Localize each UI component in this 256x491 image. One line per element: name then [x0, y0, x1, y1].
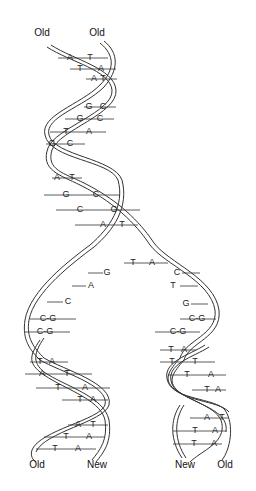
svg-text:A: A — [211, 438, 217, 448]
svg-text:A: A — [67, 52, 73, 62]
svg-text:G: G — [62, 189, 69, 199]
svg-text:A: A — [208, 369, 214, 379]
right-daughter-base-pairs: T A T T T A T A A T T A T A — [160, 344, 228, 448]
svg-text:T: T — [87, 52, 93, 62]
svg-text:T: T — [100, 73, 106, 83]
svg-text:C: C — [77, 204, 84, 214]
svg-text:A: A — [86, 431, 92, 441]
label-top-old-left: Old — [34, 27, 50, 38]
svg-text:T: T — [192, 425, 198, 435]
svg-text:A: A — [91, 73, 97, 83]
svg-text:C-G: C-G — [189, 313, 206, 323]
svg-text:C: C — [97, 113, 104, 123]
svg-text:A: A — [181, 344, 187, 354]
svg-text:G: G — [182, 298, 189, 308]
svg-text:C: C — [100, 101, 107, 111]
svg-text:A: A — [90, 394, 96, 404]
svg-text:C: C — [65, 296, 72, 306]
svg-text:G: G — [85, 101, 92, 111]
svg-text:A: A — [88, 280, 94, 290]
svg-text:C-G: C-G — [40, 313, 57, 323]
svg-text:A: A — [82, 382, 88, 392]
svg-text:A: A — [54, 172, 60, 182]
dna-replication-diagram: Old Old A T T A A T G C — [0, 0, 256, 491]
svg-text:A: A — [86, 126, 92, 136]
svg-text:T: T — [192, 356, 198, 366]
svg-text:A: A — [100, 219, 106, 229]
svg-text:A: A — [212, 425, 218, 435]
svg-text:T: T — [63, 126, 69, 136]
svg-text:T: T — [64, 368, 70, 378]
svg-text:T: T — [90, 419, 96, 429]
svg-text:A: A — [215, 384, 221, 394]
label-top-old-right: Old — [89, 27, 105, 38]
svg-text:A: A — [75, 419, 81, 429]
svg-text:T: T — [55, 382, 61, 392]
svg-text:T: T — [37, 356, 43, 366]
svg-text:T: T — [191, 438, 197, 448]
svg-text:A: A — [204, 412, 210, 422]
svg-text:C: C — [174, 267, 181, 277]
svg-text:C-G: C-G — [37, 326, 54, 336]
right-daughter-helix — [167, 345, 231, 462]
svg-text:T: T — [63, 431, 69, 441]
svg-text:T: T — [184, 369, 190, 379]
svg-text:T: T — [130, 257, 136, 267]
svg-text:T: T — [170, 280, 176, 290]
parent-helix — [24, 41, 219, 360]
left-daughter-base-pairs: T A A T T A T A A T T A T A — [25, 356, 110, 453]
svg-text:A: A — [98, 63, 104, 73]
svg-text:T: T — [52, 443, 58, 453]
right-fork-bases: C T G C-G C-G — [155, 267, 216, 336]
left-fork-bases: G A C C-G C-G — [25, 267, 111, 336]
svg-text:A: A — [149, 257, 155, 267]
label-bottom-new-right: New — [175, 459, 196, 470]
svg-text:G: G — [103, 267, 110, 277]
svg-text:T: T — [77, 394, 83, 404]
label-bottom-old-right: Old — [217, 459, 233, 470]
svg-text:C-G: C-G — [170, 326, 187, 336]
svg-text:C: C — [93, 189, 100, 199]
label-bottom-new-left: New — [87, 459, 108, 470]
svg-text:T: T — [204, 384, 210, 394]
svg-text:G: G — [76, 113, 83, 123]
svg-text:A: A — [49, 356, 55, 366]
label-bottom-old-left: Old — [29, 459, 45, 470]
svg-text:T: T — [119, 219, 125, 229]
svg-text:T: T — [219, 412, 225, 422]
svg-text:C: C — [67, 138, 74, 148]
svg-text:G: G — [48, 138, 55, 148]
svg-text:T: T — [169, 356, 175, 366]
svg-text:T: T — [69, 172, 75, 182]
svg-text:T: T — [168, 344, 174, 354]
svg-text:G: G — [110, 204, 117, 214]
svg-text:A: A — [75, 443, 81, 453]
svg-text:T: T — [77, 63, 83, 73]
svg-text:A: A — [39, 368, 45, 378]
